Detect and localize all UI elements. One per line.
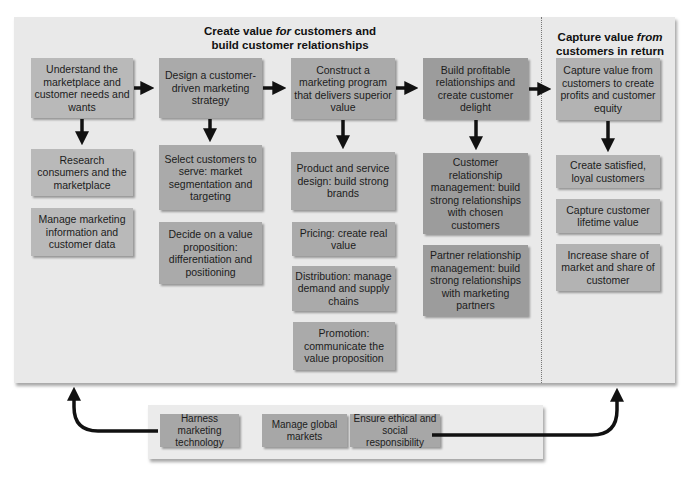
arrow-curve-up-left-icon [74, 393, 158, 431]
sub-share-of-market: Increase share of market and share of cu… [556, 244, 660, 291]
sub-satisfied-customers: Create satisfied, loyal customers [556, 155, 660, 188]
sub-distribution: Distribution: manage demand and supply c… [292, 266, 395, 311]
sub-lifetime-value: Capture customer lifetime value [556, 199, 660, 233]
step-build-relationships: Build profitable relationships and creat… [423, 58, 528, 119]
heading-emphasis: for [276, 25, 291, 37]
sub-select-customers: Select customers to serve: market segmen… [159, 145, 262, 210]
heading-emphasis: from [637, 31, 663, 43]
step-understand-marketplace: Understand the marketplace and customer … [31, 58, 133, 118]
heading-text: customers and [291, 25, 376, 37]
heading-text: Create value [204, 25, 276, 37]
factor-marketing-technology: Harness marketing technology [160, 414, 239, 447]
sub-manage-marketing-info: Manage marketing information and custome… [31, 208, 133, 256]
capture-value-heading: Capture value from customers in return [548, 30, 672, 58]
step-construct-program: Construct a marketing program that deliv… [291, 58, 395, 119]
sub-partner-relationship-mgmt: Partner relationship management: build s… [423, 245, 528, 316]
heading-text: build customer relationships [211, 39, 368, 51]
heading-text: Capture value [558, 31, 637, 43]
sub-pricing: Pricing: create real value [292, 222, 395, 256]
sub-customer-relationship-mgmt: Customer relationship management: build … [423, 153, 528, 234]
sub-product-design: Product and service design: build strong… [291, 152, 395, 210]
step-design-strategy: Design a customer-driven marketing strat… [159, 58, 262, 118]
step-capture-value: Capture value from customers to create p… [556, 58, 660, 120]
heading-text: customers in return [556, 45, 664, 57]
sub-promotion: Promotion: communicate the value proposi… [293, 322, 395, 370]
factor-ethical-responsibility: Ensure ethical and social responsibility [350, 414, 440, 447]
factor-global-markets: Manage global markets [262, 414, 347, 447]
section-divider [541, 17, 542, 383]
sub-value-proposition: Decide on a value proposition: different… [159, 222, 262, 284]
create-value-heading: Create value for customers and build cus… [180, 24, 400, 52]
sub-research-consumers: Research consumers and the marketplace [31, 149, 133, 196]
